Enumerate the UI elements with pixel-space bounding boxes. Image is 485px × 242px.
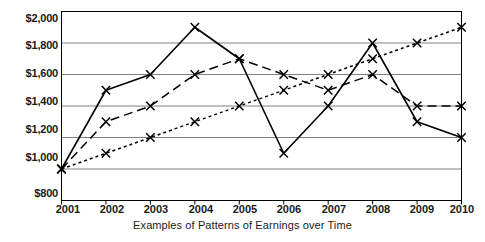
plot-area xyxy=(0,0,485,242)
data-point-2006 xyxy=(280,149,288,157)
series-2-dashed xyxy=(57,55,465,174)
data-point-2002 xyxy=(102,118,110,126)
series-line xyxy=(62,27,462,169)
data-point-2008 xyxy=(368,55,376,63)
data-point-2007 xyxy=(324,86,332,94)
data-point-2002 xyxy=(102,86,110,94)
earnings-line-chart: $2,000 $1,800 $1,600 $1,400 $1,200 $1,00… xyxy=(0,0,485,242)
x-axis-ticks xyxy=(62,201,462,205)
data-point-2006 xyxy=(280,86,288,94)
gridlines xyxy=(62,12,462,170)
x-axis-title: Examples of Patterns of Earnings over Ti… xyxy=(0,219,485,231)
series-line xyxy=(62,59,462,169)
data-point-2005 xyxy=(235,55,243,63)
data-point-2004 xyxy=(191,118,199,126)
data-point-2004 xyxy=(191,23,199,31)
data-point-2009 xyxy=(413,118,421,126)
data-point-2002 xyxy=(102,149,110,157)
series-layer xyxy=(57,23,465,173)
